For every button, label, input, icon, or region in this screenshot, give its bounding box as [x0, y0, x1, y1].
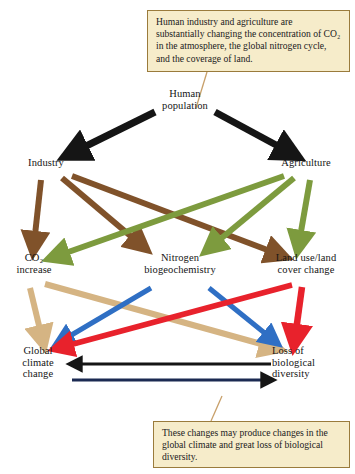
- node-industry-line1: Industry: [8, 157, 84, 169]
- node-human-population-line1: Human: [135, 88, 235, 100]
- node-nitrogen-line1: Nitrogen: [117, 252, 243, 264]
- node-biodiversity-line1: Loss of: [272, 345, 352, 357]
- callout-top-text: Human industry and agriculture are subst…: [156, 16, 340, 64]
- callout-bottom-text: These changes may produce changes in the…: [162, 427, 328, 462]
- edge-landuse-globalclimate: [62, 285, 292, 347]
- node-global-climate-line1: Global: [6, 345, 70, 357]
- node-human-population[interactable]: Human population: [135, 88, 235, 111]
- node-industry[interactable]: Industry: [8, 157, 84, 169]
- node-global-climate-line2: climate: [6, 357, 70, 369]
- node-human-population-line2: population: [135, 100, 235, 112]
- node-co2-increase-line1: CO₂: [0, 252, 68, 264]
- node-land-use-cover-change[interactable]: Land use/land cover change: [258, 252, 354, 275]
- node-loss-biological-diversity[interactable]: Loss of biological diversity: [272, 345, 352, 380]
- node-land-use-line2: cover change: [258, 264, 354, 276]
- node-co2-increase-line2: increase: [0, 264, 68, 276]
- node-nitrogen-biogeochemistry[interactable]: Nitrogen biogeochemistry: [117, 252, 243, 275]
- callout-bottom-pointer: [211, 396, 222, 421]
- node-land-use-line1: Land use/land: [258, 252, 354, 264]
- edge-population-industry: [74, 112, 155, 152]
- node-nitrogen-line2: biogeochemistry: [117, 264, 243, 276]
- callout-top: Human industry and agriculture are subst…: [147, 10, 350, 72]
- node-global-climate-line3: change: [6, 368, 70, 380]
- edge-co2-globalclimate: [30, 288, 42, 338]
- node-global-climate-change[interactable]: Global climate change: [6, 345, 70, 380]
- node-biodiversity-line2: biological: [272, 357, 352, 369]
- edge-agriculture-landuse: [299, 180, 310, 243]
- edge-population-agriculture: [215, 112, 289, 152]
- edge-co2-biodiversity: [45, 284, 272, 347]
- node-agriculture[interactable]: Agriculture: [263, 157, 349, 169]
- node-agriculture-line1: Agriculture: [263, 157, 349, 169]
- node-biodiversity-line3: diversity: [272, 368, 352, 380]
- edge-industry-co2: [34, 180, 41, 244]
- node-co2-increase[interactable]: CO₂ increase: [0, 252, 68, 275]
- edge-landuse-biodiversity: [295, 287, 302, 338]
- callout-bottom: These changes may produce changes in the…: [153, 421, 350, 468]
